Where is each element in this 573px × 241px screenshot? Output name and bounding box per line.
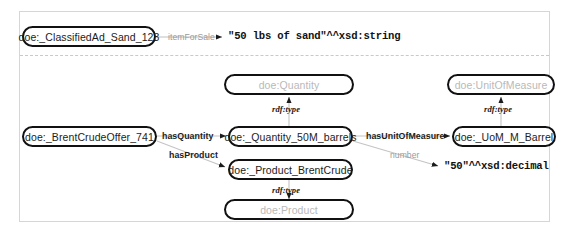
node-brent-crude-offer[interactable]: doe:_BrentCrudeOffer_741 — [22, 126, 157, 147]
literal-sand-string: "50 lbs of sand"^^xsd:string — [228, 30, 400, 42]
edge-label-number: number — [390, 150, 419, 160]
edge-label-item-for-sale: itemForSale — [168, 32, 215, 42]
node-classified-ad[interactable]: doe:_ClassifiedAd_Sand_123 — [22, 26, 156, 47]
edge-label-rdf-type-quantity: rdf:type — [272, 104, 300, 114]
node-uom-instance[interactable]: doe:_UoM_M_Barrel — [452, 126, 556, 147]
node-product-class[interactable]: doe:Product — [224, 199, 354, 220]
edge-label-has-quantity: hasQuantity — [162, 131, 213, 141]
edge-label-rdf-type-product: rdf:type — [272, 185, 300, 195]
edge-label-rdf-type-uom: rdf:type — [484, 104, 512, 114]
node-quantity-instance[interactable]: doe:_Quantity_50M_barrels — [228, 126, 353, 147]
diagram-canvas: doe:_ClassifiedAd_Sand_123 itemForSale "… — [0, 0, 573, 241]
edge-label-has-product: hasProduct — [169, 150, 218, 160]
node-quantity-class[interactable]: doe:Quantity — [224, 74, 354, 95]
node-product-instance[interactable]: doe:_Product_BrentCrude — [228, 159, 353, 180]
node-unit-of-measure-class[interactable]: doe:UnitOfMeasure — [447, 74, 555, 95]
edge-label-has-unit-of-measure: hasUnitOfMeasure — [366, 131, 445, 141]
literal-decimal-50: "50"^^xsd:decimal — [444, 160, 549, 172]
